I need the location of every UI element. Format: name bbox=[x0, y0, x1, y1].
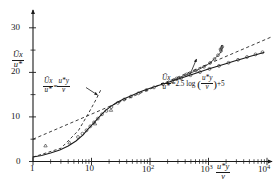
viscous-sublayer-equation: Ūx u* = u*y ν bbox=[43, 79, 70, 95]
x-tick-label-1: 1 bbox=[30, 164, 35, 173]
loglaw-lhs-fraction: Ūx u* bbox=[161, 75, 171, 91]
y-axis-label: Ūx u* bbox=[12, 52, 24, 70]
x-tick-mantissa-1000: 10 bbox=[201, 164, 210, 174]
sublayer-lhs-denominator: u* bbox=[43, 87, 53, 94]
x-axis-label-fraction: u*y ν bbox=[216, 163, 230, 181]
loglaw-lhs-denominator: u* bbox=[161, 84, 171, 91]
x-axis-label-denominator: ν bbox=[216, 173, 230, 182]
x-tick-exponent-1000: 3 bbox=[210, 163, 213, 170]
sublayer-rhs-denominator: ν bbox=[57, 87, 69, 94]
y-tick-label-0: 0 bbox=[16, 157, 21, 166]
sublayer-lhs-fraction: Ūx u* bbox=[43, 78, 53, 94]
x-tick-label-10: 10 bbox=[85, 164, 94, 173]
x-tick-mantissa-100: 10 bbox=[142, 164, 151, 174]
figure-container: 0 10 20 30 1 10 102 103 104 Ūx u* u*y ν… bbox=[0, 0, 279, 187]
sublayer-rhs-fraction: u*y ν bbox=[57, 78, 69, 94]
log-law-equation: Ūx u* =2.5 log ( u*y ν )+5 bbox=[161, 76, 225, 92]
y-tick-label-10: 10 bbox=[11, 112, 20, 121]
x-tick-mantissa-10000: 10 bbox=[258, 164, 267, 174]
x-tick-exponent-100: 2 bbox=[151, 163, 154, 170]
loglaw-argument-denominator: ν bbox=[201, 84, 213, 91]
x-tick-label-10000: 104 bbox=[258, 164, 270, 174]
y-axis-label-fraction: Ūx u* bbox=[12, 51, 24, 69]
x-tick-label-1000: 103 bbox=[201, 164, 213, 174]
loglaw-argument-fraction: u*y ν bbox=[201, 75, 213, 91]
x-tick-exponent-10000: 4 bbox=[267, 163, 270, 170]
loglaw-constant: +5 bbox=[217, 80, 225, 88]
plot-canvas bbox=[0, 0, 279, 187]
viscous-sublayer-annotation-arrow bbox=[86, 88, 98, 96]
loglaw-function: log bbox=[186, 80, 195, 88]
x-tick-label-100: 102 bbox=[142, 164, 154, 174]
y-axis-label-denominator: u* bbox=[12, 61, 24, 70]
experimental-data-branch-lower bbox=[77, 51, 264, 139]
y-tick-label-30: 30 bbox=[11, 23, 20, 32]
loglaw-coefficient: 2.5 bbox=[175, 80, 184, 88]
x-axis-label: u*y ν bbox=[216, 164, 230, 182]
